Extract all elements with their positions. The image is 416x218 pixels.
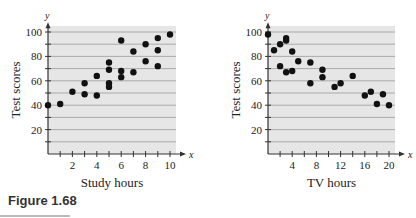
- y-axis-letter: y: [44, 10, 50, 21]
- data-point: [130, 69, 136, 75]
- y-axis-label: Test scores: [8, 61, 23, 118]
- data-point: [277, 63, 283, 69]
- x-axis-label: TV hours: [307, 175, 356, 190]
- x-tick-label: 10: [165, 159, 177, 171]
- data-point: [130, 48, 136, 54]
- scatter-chart-study-hours: 20406080100xy246810Study hoursTest score…: [0, 0, 210, 190]
- y-tick-label: 20: [251, 124, 263, 136]
- divider-rule: [0, 215, 70, 217]
- data-point: [307, 80, 313, 86]
- data-point: [118, 37, 124, 43]
- data-point: [319, 67, 325, 73]
- data-point: [118, 74, 124, 80]
- data-point: [368, 89, 374, 95]
- x-axis-letter: x: [407, 149, 413, 160]
- x-axis-letter: x: [188, 149, 194, 160]
- figure-caption: Figure 1.68: [8, 193, 77, 208]
- data-point: [337, 80, 343, 86]
- y-axis-label: Test scores: [228, 61, 243, 118]
- data-point: [155, 35, 161, 41]
- x-tick-label: 16: [359, 159, 371, 171]
- data-point: [307, 59, 313, 65]
- data-point: [142, 41, 148, 47]
- plot-area: [268, 26, 395, 154]
- data-point: [380, 91, 386, 97]
- y-axis-arrow-icon: [266, 22, 271, 28]
- x-axis-label: Study hours: [81, 175, 143, 190]
- data-point: [142, 58, 148, 64]
- x-tick-label: 4: [94, 159, 100, 171]
- data-point: [155, 47, 161, 53]
- x-axis-arrow-icon: [399, 152, 405, 157]
- data-point: [289, 48, 295, 54]
- data-point: [106, 67, 112, 73]
- data-point: [69, 89, 75, 95]
- y-tick-label: 60: [31, 75, 43, 87]
- data-point: [94, 73, 100, 79]
- data-point: [94, 92, 100, 98]
- data-point: [118, 68, 124, 74]
- x-tick-label: 8: [143, 159, 149, 171]
- y-tick-label: 40: [251, 99, 263, 111]
- data-point: [106, 84, 112, 90]
- y-tick-label: 80: [251, 50, 263, 62]
- data-point: [271, 47, 277, 53]
- y-tick-label: 100: [246, 26, 263, 38]
- data-point: [331, 84, 337, 90]
- y-tick-label: 20: [31, 124, 43, 136]
- y-tick-label: 40: [31, 99, 43, 111]
- data-point: [57, 101, 63, 107]
- data-point: [283, 69, 289, 75]
- x-axis-arrow-icon: [180, 152, 186, 157]
- x-tick-label: 2: [70, 159, 76, 171]
- data-point: [319, 74, 325, 80]
- y-tick-label: 80: [31, 50, 43, 62]
- plot-area: [48, 26, 176, 154]
- x-tick-label: 12: [335, 159, 346, 171]
- data-point: [265, 31, 271, 37]
- data-point: [374, 101, 380, 107]
- data-point: [362, 92, 368, 98]
- data-point: [155, 63, 161, 69]
- data-point: [289, 68, 295, 74]
- x-tick-label: 6: [118, 159, 124, 171]
- data-point: [81, 80, 87, 86]
- data-point: [106, 59, 112, 65]
- data-point: [283, 37, 289, 43]
- data-point: [45, 102, 51, 108]
- data-point: [277, 41, 283, 47]
- y-axis-letter: y: [264, 10, 270, 21]
- data-point: [350, 73, 356, 79]
- y-axis-arrow-icon: [46, 22, 51, 28]
- data-point: [386, 102, 392, 108]
- y-tick-label: 100: [26, 26, 43, 38]
- y-tick-label: 60: [251, 75, 263, 87]
- data-point: [81, 91, 87, 97]
- x-tick-label: 20: [384, 159, 396, 171]
- data-point: [167, 31, 173, 37]
- data-point: [295, 58, 301, 64]
- scatter-chart-tv-hours: 20406080100xy48121620TV hoursTest scores: [210, 0, 416, 190]
- x-tick-label: 4: [289, 159, 295, 171]
- x-tick-label: 8: [314, 159, 320, 171]
